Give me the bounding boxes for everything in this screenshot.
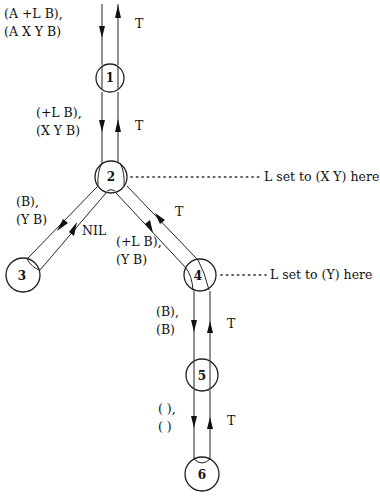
annotation-node-4: L set to (Y) here: [221, 267, 372, 282]
edge-down-label: (Y B): [116, 252, 147, 267]
down-arrow-icon: [99, 120, 105, 132]
edge-down-label: (B),: [16, 194, 39, 209]
node-label: 6: [198, 468, 206, 482]
down-arrow-icon: [191, 320, 197, 332]
edge-up-label: T: [135, 16, 144, 31]
edge-down-label: (B),: [156, 304, 179, 319]
annotation-text: L set to (X Y) here: [264, 169, 379, 184]
edge-top-to-1: (A +L B), (A X Y B) T: [4, 4, 144, 65]
up-arrow-icon: [207, 321, 213, 333]
node-2: 2: [95, 161, 127, 193]
edge-2-to-3: (B), (Y B) NIL: [16, 187, 106, 270]
edge-2-to-4: (+L B), (Y B) T: [116, 186, 198, 268]
edge-up-label: T: [227, 316, 236, 331]
up-arrow-icon: [207, 417, 213, 429]
up-arrow-icon: [155, 213, 165, 224]
edge-down-label: (B): [156, 322, 175, 337]
up-arrow-icon: [115, 119, 121, 132]
node-label: 1: [106, 71, 114, 85]
edge-down-label: ( ),: [158, 401, 176, 416]
node-4: 4: [184, 259, 216, 291]
node-3: 3: [6, 258, 40, 292]
node-6: 6: [185, 457, 219, 491]
edge-up-label: NIL: [82, 223, 106, 238]
down-arrow-icon: [145, 220, 153, 233]
edge-1-to-2: (+L B), (X Y B) T: [36, 92, 144, 163]
edge-down-label: (A +L B),: [4, 6, 63, 21]
edge-down-label: (+L B),: [116, 234, 162, 249]
annotation-node-2: L set to (X Y) here: [131, 169, 379, 184]
edge-down-label: ( ): [158, 419, 172, 434]
down-arrow-icon: [191, 416, 197, 428]
up-arrow-icon: [115, 5, 121, 18]
annotation-text: L set to (Y) here: [270, 267, 372, 282]
recursion-tree-diagram: (A +L B), (A X Y B) T (+L B), (X Y B) T …: [0, 0, 380, 500]
node-label: 5: [198, 369, 206, 383]
edge-down-label: (Y B): [16, 212, 47, 227]
edge-down-label: (A X Y B): [4, 24, 61, 39]
edge-up-label: T: [175, 204, 184, 219]
node-label: 2: [107, 170, 115, 184]
down-arrow-icon: [99, 26, 105, 38]
node-1: 1: [96, 64, 124, 92]
down-arrow-icon: [57, 219, 68, 231]
node-5: 5: [186, 359, 218, 391]
edge-down-label: (X Y B): [36, 123, 80, 138]
node-label: 3: [18, 269, 26, 283]
edge-down-label: (+L B),: [36, 105, 82, 120]
edge-up-label: T: [227, 413, 236, 428]
edge-5-to-6: ( ), ( ) T: [158, 390, 236, 459]
edge-4-to-5: (B), (B) T: [156, 291, 236, 361]
node-label: 4: [194, 269, 202, 283]
edge-up-label: T: [135, 118, 144, 133]
